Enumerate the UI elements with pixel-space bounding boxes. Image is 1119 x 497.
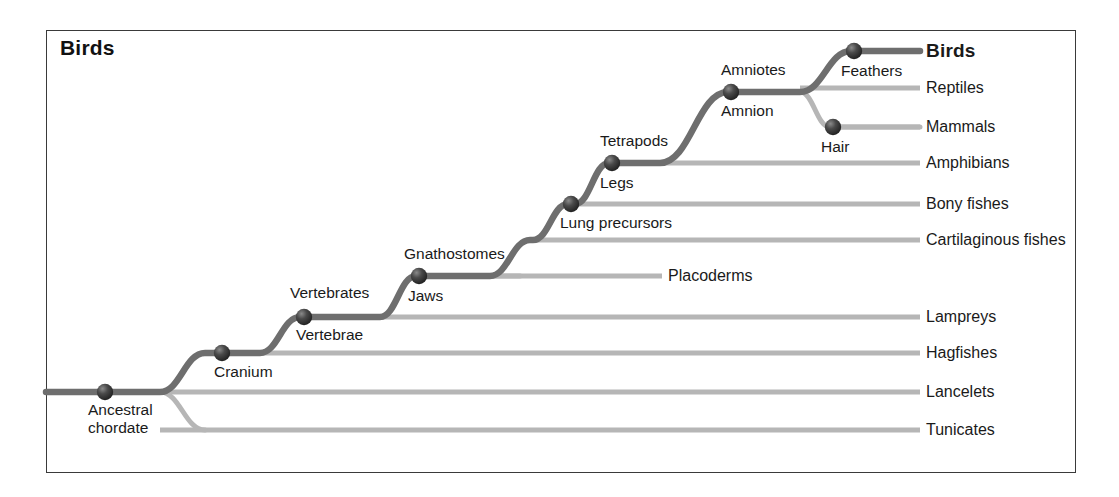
node-marker-lung-precursors[interactable] [563, 196, 579, 212]
label-amnion: Amnion [721, 102, 774, 120]
label-jaws: Jaws [408, 287, 443, 305]
taxon-label-hagfishes: Hagfishes [926, 344, 997, 363]
taxon-label-tunicates: Tunicates [926, 421, 995, 440]
label-feathers: Feathers [841, 62, 902, 80]
node-marker-ancestral-chordate[interactable] [97, 384, 113, 400]
label-cranium: Cranium [214, 363, 273, 381]
label-amniotes: Amniotes [721, 61, 786, 79]
node-marker-gnathostomes[interactable] [411, 268, 427, 284]
label-vertebrae: Vertebrae [296, 326, 363, 344]
node-marker-amniotes[interactable] [723, 84, 739, 100]
label-vertebrates: Vertebrates [290, 284, 369, 302]
taxon-label-cartilaginous-fishes: Cartilaginous fishes [926, 231, 1066, 250]
label-hair: Hair [821, 138, 849, 156]
node-marker-hair[interactable] [825, 119, 841, 135]
node-marker-group [97, 43, 862, 400]
taxon-label-bony-fishes: Bony fishes [926, 195, 1009, 214]
stub-tunicates [160, 392, 205, 430]
node-marker-vertebrates[interactable] [296, 309, 312, 325]
label-legs: Legs [600, 174, 634, 192]
taxon-label-reptiles: Reptiles [926, 79, 984, 98]
taxon-label-lampreys: Lampreys [926, 308, 996, 327]
main-trunk-line [46, 51, 920, 392]
label-ancestral-chordate-2: chordate [88, 419, 148, 437]
label-gnathostomes: Gnathostomes [404, 245, 505, 263]
label-ancestral-chordate: Ancestral [88, 401, 153, 419]
node-marker-cranium[interactable] [214, 345, 230, 361]
taxon-label-birds: Birds [926, 40, 976, 62]
label-lung-precursors: Lung precursors [560, 214, 672, 232]
taxon-label-lancelets: Lancelets [926, 383, 995, 402]
node-marker-tetrapods[interactable] [604, 155, 620, 171]
phylogenetic-tree-figure: Birds BirdsReptilesMammalsAmphibiansBony… [0, 0, 1119, 497]
label-tetrapods: Tetrapods [600, 132, 668, 150]
taxon-label-amphibians: Amphibians [926, 154, 1010, 173]
taxon-label-placoderms: Placoderms [668, 267, 752, 286]
branch-line-mammals-connector [800, 92, 920, 127]
taxon-label-mammals: Mammals [926, 118, 995, 137]
branch-line-group [160, 88, 920, 430]
node-marker-feathers[interactable] [846, 43, 862, 59]
trunk-line-group [46, 51, 920, 392]
